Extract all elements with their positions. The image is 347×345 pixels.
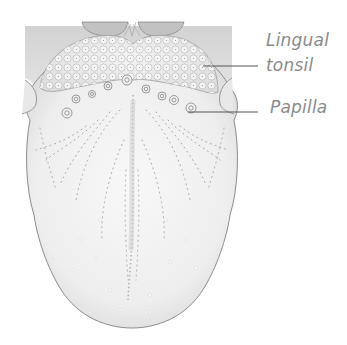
label-papilla: Papilla — [270, 97, 327, 117]
label-lingual-tonsil-line2: tonsil — [266, 55, 313, 75]
label-lingual-tonsil-line1: Lingual — [266, 30, 329, 50]
tongue-diagram — [0, 0, 347, 345]
